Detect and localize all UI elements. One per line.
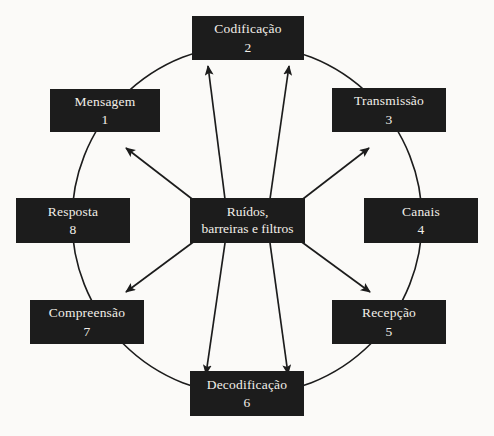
spoke-to-mensagem: [126, 148, 196, 202]
node-canais-number: 4: [418, 222, 425, 237]
node-compreensao-label: Compreensão: [49, 305, 125, 320]
node-resposta-number: 8: [70, 222, 77, 237]
spoke-to-recepcao: [299, 240, 370, 292]
node-mensagem-number: 1: [102, 112, 109, 127]
node-codificacao-number: 2: [245, 40, 252, 55]
node-transmissao-label: Transmissão: [354, 93, 424, 108]
node-mensagem[interactable]: Mensagem 1: [50, 89, 160, 132]
node-recepcao-number: 5: [386, 324, 393, 339]
node-recepcao[interactable]: Recepção 5: [332, 300, 446, 344]
node-transmissao[interactable]: Transmissão 3: [332, 88, 446, 132]
node-canais[interactable]: Canais 4: [364, 198, 478, 243]
node-compreensao-number: 7: [84, 324, 91, 339]
node-resposta[interactable]: Resposta 8: [16, 198, 130, 243]
node-canais-label: Canais: [402, 204, 440, 219]
node-codificacao[interactable]: Codificação 2: [192, 16, 304, 60]
spoke-to-decodificacao: [270, 243, 288, 374]
communication-process-diagram: Mensagem 1 Codificação 2 Transmissão 3 C…: [0, 0, 494, 436]
center-line-2: barreiras e filtros: [201, 221, 293, 237]
spoke-to-compreensao: [206, 243, 225, 374]
node-ruidos-barreiras-filtros[interactable]: Ruídos, barreiras e filtros: [190, 198, 305, 243]
node-decodificacao[interactable]: Decodificação 6: [190, 371, 304, 416]
spoke-to-transmissao: [270, 66, 289, 199]
node-decodificacao-number: 6: [244, 395, 251, 410]
spoke-to-codificacao: [208, 66, 225, 199]
node-decodificacao-label: Decodificação: [207, 377, 288, 392]
node-compreensao[interactable]: Compreensão 7: [30, 300, 144, 344]
node-resposta-label: Resposta: [48, 204, 98, 219]
node-mensagem-label: Mensagem: [75, 94, 136, 109]
node-codificacao-label: Codificação: [214, 21, 281, 36]
center-line-1: Ruídos,: [227, 204, 269, 220]
node-transmissao-number: 3: [386, 112, 393, 127]
spoke-to-canais: [299, 148, 369, 202]
spoke-to-resposta: [126, 240, 196, 292]
node-recepcao-label: Recepção: [362, 305, 416, 320]
